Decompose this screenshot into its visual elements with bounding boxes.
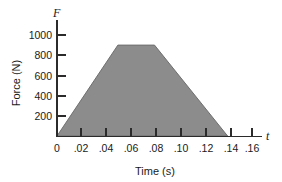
y-tick-label-400: 400 <box>34 90 52 102</box>
x-tick-label-006: .06 <box>124 142 139 154</box>
x-tick-label-004: .04 <box>99 142 114 154</box>
y-tick-label-1000: 1000 <box>29 29 53 41</box>
y-axis-symbol-F: F <box>52 6 61 20</box>
x-tick-label-014: .14 <box>224 142 239 154</box>
y-tick-label-800: 800 <box>34 49 52 61</box>
x-tick-label-002: .02 <box>74 142 89 154</box>
x-tick-label-012: .12 <box>199 142 214 154</box>
x-axis-symbol-t: t <box>266 129 270 143</box>
x-axis-title: Time (s) <box>135 165 175 177</box>
x-tick-label-0: 0 <box>54 142 60 154</box>
x-tick-label-016: .16 <box>245 142 260 154</box>
y-axis-title: Force (N) <box>10 60 22 106</box>
chart-canvas: 1000 800 600 400 200 0 .02 .04 .06 .08 .… <box>0 0 282 182</box>
x-tick-label-010: .10 <box>174 142 189 154</box>
x-tick-label-008: .08 <box>149 142 164 154</box>
y-tick-label-600: 600 <box>34 70 52 82</box>
force-area-polygon <box>57 45 228 136</box>
y-tick-label-200: 200 <box>34 110 52 122</box>
force-time-chart: 1000 800 600 400 200 0 .02 .04 .06 .08 .… <box>0 0 282 182</box>
